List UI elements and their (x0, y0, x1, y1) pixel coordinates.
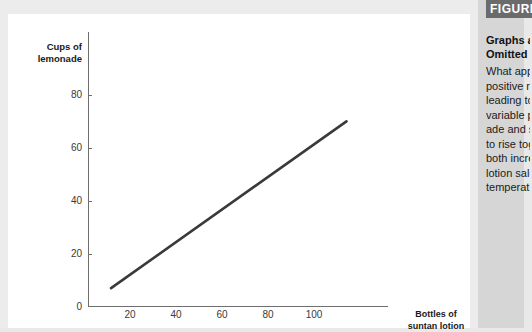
plot-area (8, 14, 470, 328)
figure-note-heading-line: Omitted Variables (486, 48, 530, 62)
figure-note-body-line: both increase with (486, 151, 530, 166)
line-chart: Cups of lemonade 80 60 40 20 0 (8, 14, 470, 328)
figure-note-body-line: to rise together because (486, 137, 530, 152)
figure-tag-badge: FIGURE (486, 0, 532, 18)
figure-note-body-line: positive relationship, (486, 79, 530, 94)
figure-note-panel: FIGURE Graphs andOmitted Variables What … (478, 0, 524, 328)
figure-note-body-line: leading to an omitted (486, 93, 530, 108)
figure-note-body-line: lotion sales as (486, 166, 530, 181)
data-series-line (111, 121, 346, 288)
figure-card: Cups of lemonade 80 60 40 20 0 (8, 14, 470, 328)
figure-note-body-line: ade and suntan lotion sales (486, 122, 530, 137)
figure-note-body-line: What appears to be a (486, 64, 530, 79)
figure-note-body-line: temperature rises. (486, 180, 530, 195)
figure-note-body-line: variable problem: lemon- (486, 108, 530, 123)
figure-note-body: What appears to be apositive relationshi… (486, 64, 530, 195)
figure-note-heading-line: Graphs and (486, 34, 530, 48)
figure-note-heading: Graphs andOmitted Variables (486, 34, 530, 62)
